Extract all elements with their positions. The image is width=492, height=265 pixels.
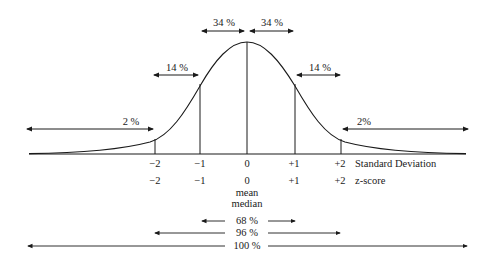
z-tick-zero: 0 bbox=[244, 175, 249, 187]
z-tick-plus1: +1 bbox=[288, 175, 299, 187]
label-2-left: 2 % bbox=[123, 116, 140, 128]
z-tick-minus2: −2 bbox=[149, 175, 160, 187]
label-34-right: 34 % bbox=[261, 17, 283, 29]
z-tick-minus1: −1 bbox=[194, 175, 205, 187]
median-label: median bbox=[232, 198, 263, 210]
z-tick-plus2: +2 bbox=[334, 175, 345, 187]
coverage-100-label: 100 % bbox=[233, 240, 260, 252]
sd-tick-plus2: +2 bbox=[334, 158, 345, 170]
sd-axis-label: Standard Deviation bbox=[355, 158, 436, 170]
sd-tick-minus1: −1 bbox=[194, 158, 205, 170]
label-14-right: 14 % bbox=[309, 62, 331, 74]
label-34-left: 34 % bbox=[213, 17, 235, 29]
sd-tick-plus1: +1 bbox=[288, 158, 299, 170]
coverage-96-label: 96 % bbox=[236, 227, 258, 239]
z-axis-label: z-score bbox=[355, 175, 385, 187]
coverage-68-label: 68 % bbox=[236, 215, 258, 227]
label-14-left: 14 % bbox=[166, 62, 188, 74]
label-2-right: 2% bbox=[357, 116, 371, 128]
sd-tick-minus2: −2 bbox=[149, 158, 160, 170]
sd-tick-zero: 0 bbox=[244, 158, 249, 170]
